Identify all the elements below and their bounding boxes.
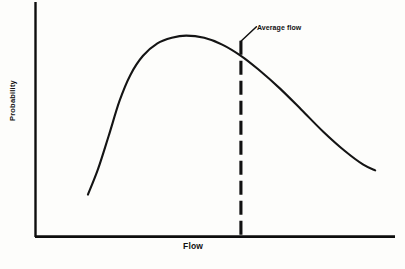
x-axis-label: Flow bbox=[183, 241, 203, 251]
y-axis-label: Probability bbox=[8, 71, 17, 131]
average-flow-leader-line bbox=[241, 27, 257, 42]
chart-figure: Probability Flow Average flow bbox=[0, 0, 405, 269]
average-flow-annotation-label: Average flow bbox=[257, 24, 302, 31]
distribution-curve bbox=[88, 36, 375, 195]
probability-flow-chart bbox=[0, 0, 405, 269]
